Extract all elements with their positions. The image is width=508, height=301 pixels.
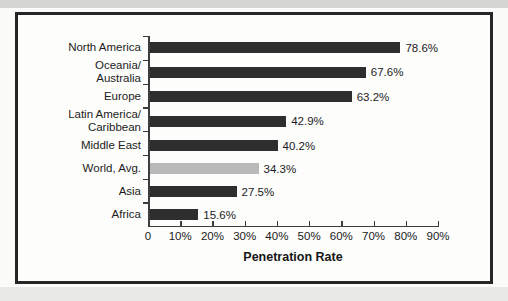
category-label-line: Australia	[18, 72, 141, 85]
bar-row: World, Avg.34.3%	[18, 157, 490, 180]
x-axis-tick-label: 0	[145, 230, 151, 242]
bar	[148, 209, 198, 220]
y-axis-tick	[143, 107, 148, 108]
value-label: 63.2%	[357, 91, 390, 103]
bar-area: 15.6%	[148, 209, 438, 221]
bar-area: 63.2%	[148, 91, 438, 103]
category-label-line: Caribbean	[18, 121, 141, 134]
category-label: Asia	[18, 185, 148, 198]
bar-row: Middle East40.2%	[18, 134, 490, 157]
bar-area: 67.6%	[148, 66, 438, 78]
value-label: 78.6%	[405, 42, 438, 54]
page-background: North America78.6%Oceania/Australia67.6%…	[0, 0, 508, 301]
y-axis-tick	[143, 60, 148, 61]
category-label-line: Middle East	[18, 139, 141, 152]
x-axis-tick	[406, 221, 407, 226]
x-axis-tick	[374, 221, 375, 226]
category-label: Europe	[18, 90, 148, 103]
category-label-line: Africa	[18, 208, 141, 221]
x-axis-tick-label: 90%	[426, 230, 449, 242]
bar	[148, 140, 278, 151]
category-label: Latin America/Caribbean	[18, 108, 148, 134]
value-label: 67.6%	[371, 66, 404, 78]
x-axis-tick	[180, 221, 181, 226]
x-axis-tick-label: 80%	[394, 230, 417, 242]
x-axis-tick	[148, 221, 149, 226]
bar-world-average	[148, 163, 259, 174]
value-label: 40.2%	[283, 140, 316, 152]
value-label: 27.5%	[242, 186, 275, 198]
bar-row: Oceania/Australia67.6%	[18, 59, 490, 85]
x-axis-tick-label: 10%	[169, 230, 192, 242]
x-axis-tick-label: 60%	[330, 230, 353, 242]
category-label: North America	[18, 41, 148, 54]
x-axis-tick	[277, 221, 278, 226]
x-axis-tick	[245, 221, 246, 226]
bar	[148, 42, 400, 53]
bar-row: Asia27.5%	[18, 180, 490, 203]
x-axis-tick	[438, 221, 439, 226]
bar-area: 34.3%	[148, 163, 438, 175]
bar	[148, 67, 366, 78]
y-axis-tick	[143, 155, 148, 156]
y-axis-tick	[143, 179, 148, 180]
bar-row: Europe63.2%	[18, 85, 490, 108]
bar-area: 78.6%	[148, 42, 438, 54]
category-label-line: World, Avg.	[18, 162, 141, 175]
bar-rows: North America78.6%Oceania/Australia67.6%…	[18, 36, 490, 226]
x-axis-tick-label: 20%	[201, 230, 224, 242]
bar	[148, 116, 286, 127]
category-label: Middle East	[18, 139, 148, 152]
y-axis-tick	[143, 202, 148, 203]
bar-row: Latin America/Caribbean42.9%	[18, 108, 490, 134]
bar-row: Africa15.6%	[18, 203, 490, 226]
x-axis-line	[148, 226, 439, 228]
category-label-line: Europe	[18, 90, 141, 103]
bar-area: 42.9%	[148, 115, 438, 127]
bar-row: North America78.6%	[18, 36, 490, 59]
category-label-line: Oceania/	[18, 59, 141, 72]
y-axis-tick	[143, 36, 148, 37]
value-label: 15.6%	[203, 209, 236, 221]
x-axis-tick	[212, 221, 213, 226]
x-axis-tick-label: 70%	[362, 230, 385, 242]
category-label: Oceania/Australia	[18, 59, 148, 85]
chart-frame: North America78.6%Oceania/Australia67.6%…	[15, 12, 493, 284]
y-axis-tick	[143, 131, 148, 132]
y-axis-line	[148, 36, 150, 227]
category-label-line: Asia	[18, 185, 141, 198]
value-label: 34.3%	[264, 163, 297, 175]
category-label: World, Avg.	[18, 162, 148, 175]
category-label-line: Latin America/	[18, 108, 141, 121]
x-axis-tick-label: 50%	[298, 230, 321, 242]
category-label: Africa	[18, 208, 148, 221]
x-axis-tick-label: 30%	[233, 230, 256, 242]
value-label: 42.9%	[291, 115, 324, 127]
bar-area: 27.5%	[148, 186, 438, 198]
scan-edge-top	[0, 0, 508, 8]
x-axis-tick	[309, 221, 310, 226]
x-axis-tick-label: 40%	[265, 230, 288, 242]
x-axis-title: Penetration Rate	[243, 250, 342, 264]
x-axis-tick	[341, 221, 342, 226]
y-axis-tick	[143, 84, 148, 85]
category-label-line: North America	[18, 41, 141, 54]
bar-area: 40.2%	[148, 140, 438, 152]
bar	[148, 186, 237, 197]
scan-edge-bottom	[0, 287, 508, 301]
bar	[148, 91, 352, 102]
